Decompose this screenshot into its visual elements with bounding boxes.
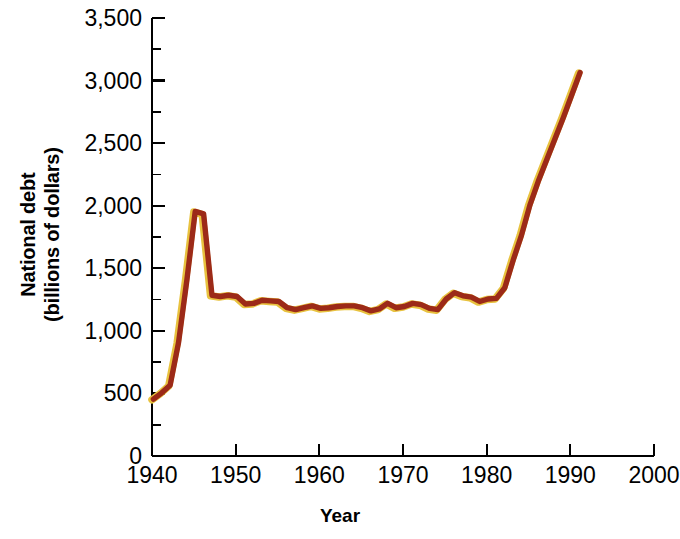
data-series	[152, 72, 580, 399]
series-line-highlight	[152, 73, 579, 400]
series-line	[153, 72, 580, 399]
chart-container: National debt (billions of dollars) 0500…	[0, 0, 680, 539]
plot-area	[0, 0, 680, 539]
x-axis-title: Year	[0, 505, 680, 527]
